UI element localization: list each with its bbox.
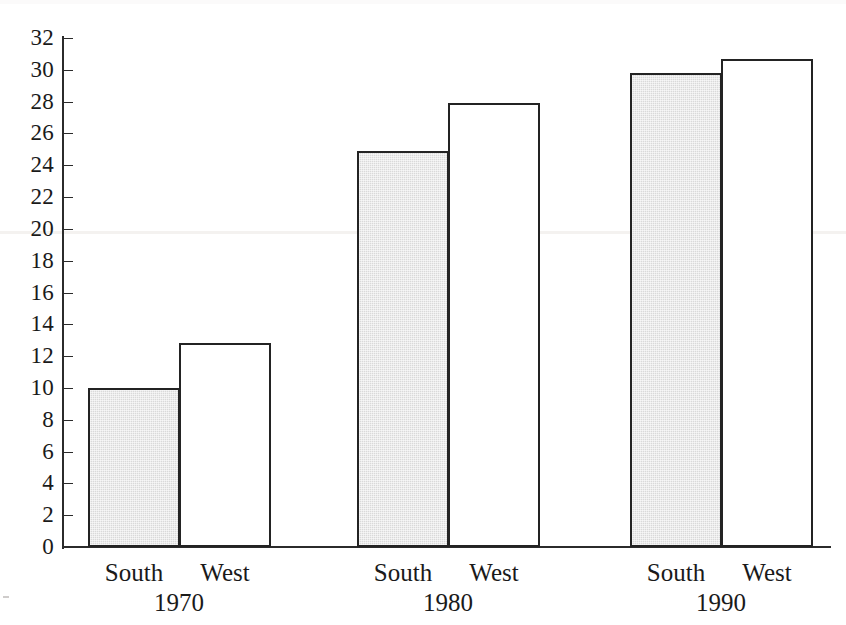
y-axis-tick-label: 32 <box>8 26 54 49</box>
y-axis-tick-label: 10 <box>8 376 54 399</box>
y-axis-tick-label: 30 <box>8 58 54 81</box>
x-axis-series-label: West <box>697 558 837 588</box>
y-axis-tick-label: 22 <box>8 185 54 208</box>
y-axis-tick-label: 14 <box>8 312 54 335</box>
plot-area <box>62 38 830 547</box>
page-edge-mark <box>3 596 9 598</box>
scan-artifact-top <box>0 0 846 4</box>
x-axis-series-label: West <box>155 558 295 588</box>
y-axis-tick-label: 12 <box>8 344 54 367</box>
y-axis-tick-label: 6 <box>8 440 54 463</box>
bar-1990-south <box>630 73 722 547</box>
bar-1980-south <box>357 151 449 547</box>
y-axis-tick-label: 28 <box>8 90 54 113</box>
x-axis-group-label: 1990 <box>651 588 791 618</box>
y-axis-tick <box>64 547 73 548</box>
y-axis-tick-label: 18 <box>8 249 54 272</box>
x-axis-group-label: 1980 <box>378 588 518 618</box>
y-axis-tick-label: 4 <box>8 471 54 494</box>
y-axis-tick-label: 20 <box>8 217 54 240</box>
y-axis-tick-label: 24 <box>8 153 54 176</box>
y-axis-tick-label: 8 <box>8 408 54 431</box>
y-axis-tick-label: 26 <box>8 121 54 144</box>
y-axis-tick-label: 2 <box>8 503 54 526</box>
y-axis-tick-label: 16 <box>8 281 54 304</box>
x-axis-series-label: West <box>424 558 564 588</box>
bar-1970-west <box>179 343 271 547</box>
x-axis-group-label: 1970 <box>109 588 249 618</box>
x-axis-labels: SouthWest1970SouthWest1980SouthWest1990 <box>0 552 846 625</box>
bar-1990-west <box>721 59 813 547</box>
bar-chart: 32302826242220181614121086420 SouthWest1… <box>0 0 846 625</box>
bar-1970-south <box>88 388 180 547</box>
bar-1980-west <box>448 103 540 547</box>
